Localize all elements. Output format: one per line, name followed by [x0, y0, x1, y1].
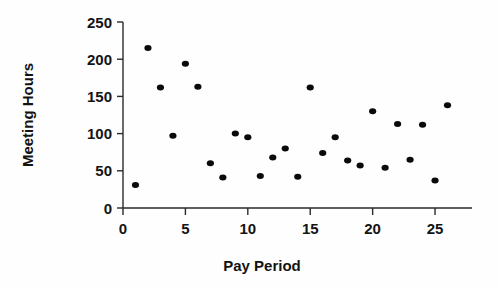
y-tick-label: 100	[87, 125, 112, 142]
data-point	[394, 121, 401, 127]
y-tick-label: 50	[95, 162, 112, 179]
y-axis-title: Meeting Hours	[19, 63, 36, 167]
data-point	[332, 134, 339, 140]
data-point	[157, 84, 164, 90]
data-point	[132, 182, 139, 188]
x-axis-title: Pay Period	[223, 257, 301, 274]
x-tick-label: 15	[302, 220, 319, 237]
data-point	[357, 163, 364, 169]
data-point	[169, 133, 176, 139]
y-tick-label: 200	[87, 51, 112, 68]
x-tick-label: 5	[181, 220, 189, 237]
data-point	[406, 157, 413, 163]
x-axis: 0510152025	[119, 208, 472, 237]
data-point	[182, 61, 189, 67]
y-tick-label: 150	[87, 88, 112, 105]
data-point	[194, 84, 201, 90]
data-point	[344, 157, 351, 163]
data-point	[382, 165, 389, 171]
y-tick-label: 0	[104, 200, 112, 217]
x-tick-label: 0	[119, 220, 127, 237]
data-point	[219, 174, 226, 180]
data-point	[232, 131, 239, 137]
data-point	[307, 84, 314, 90]
scatter-plot-figure: 050100150200250 0510152025 Pay Period Me…	[0, 0, 499, 289]
data-point	[144, 45, 151, 51]
data-point	[257, 173, 264, 179]
y-tick-label: 250	[87, 14, 112, 31]
x-tick-label: 25	[427, 220, 444, 237]
data-point	[319, 150, 326, 156]
data-point	[444, 102, 451, 108]
data-point	[431, 177, 438, 183]
data-point	[269, 154, 276, 160]
data-point	[369, 108, 376, 114]
plot-canvas: 050100150200250 0510152025 Pay Period Me…	[0, 0, 499, 289]
data-point	[294, 174, 301, 180]
data-points-layer	[132, 45, 451, 188]
y-axis: 050100150200250	[87, 14, 123, 217]
x-tick-label: 10	[239, 220, 256, 237]
data-point	[282, 145, 289, 151]
x-tick-label: 20	[364, 220, 381, 237]
data-point	[419, 122, 426, 128]
data-point	[244, 134, 251, 140]
data-point	[207, 160, 214, 166]
